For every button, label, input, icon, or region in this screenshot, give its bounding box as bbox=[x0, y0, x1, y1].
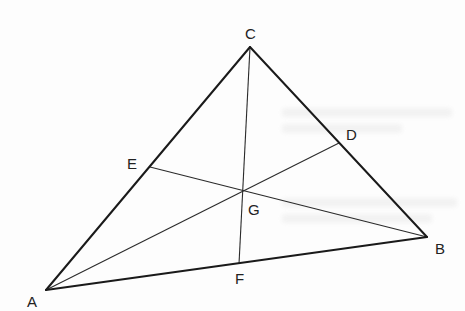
centroid-label-g: G bbox=[248, 201, 260, 218]
midpoint-label-f: F bbox=[235, 270, 244, 287]
diagram-canvas: A B C D E F G bbox=[0, 0, 465, 311]
midpoint-label-d: D bbox=[346, 126, 357, 143]
side-CA bbox=[46, 47, 250, 290]
median-BE bbox=[150, 167, 427, 237]
midpoint-label-e: E bbox=[127, 155, 137, 172]
side-BC bbox=[250, 47, 427, 237]
median-CF bbox=[239, 47, 250, 264]
triangle-diagram: A B C D E F G bbox=[0, 0, 465, 311]
vertex-label-c: C bbox=[245, 25, 256, 42]
vertex-label-b: B bbox=[435, 240, 445, 257]
vertex-label-a: A bbox=[27, 293, 37, 310]
median-AD bbox=[46, 143, 339, 290]
